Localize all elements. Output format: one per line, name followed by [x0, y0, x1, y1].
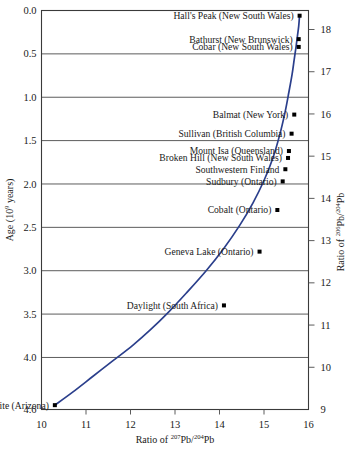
data-point-10[interactable]	[258, 250, 262, 254]
data-point-11[interactable]	[222, 303, 226, 307]
y-tick-label-4.0: 4.0	[23, 352, 36, 363]
y2-tick-label-13: 13	[321, 235, 332, 246]
data-point-1[interactable]	[297, 37, 301, 41]
y-tick-label-0.5: 0.5	[23, 48, 36, 59]
y2-tick-label-12: 12	[321, 277, 332, 288]
point-label-4: Sullivan (British Columbia)	[178, 128, 285, 140]
point-label-11: Daylight (South Africa)	[127, 300, 218, 312]
x-tick-label-15: 15	[259, 419, 270, 430]
y2-tick-label-14: 14	[321, 193, 332, 204]
y2-tick-label-10: 10	[321, 362, 332, 373]
x-tick-label-12: 12	[125, 419, 136, 430]
point-label-10: Geneva Lake (Ontario)	[165, 246, 254, 258]
x-tick-label-13: 13	[170, 419, 181, 430]
data-point-6[interactable]	[286, 156, 290, 160]
svg-text:Age (109 years): Age (109 years)	[3, 179, 16, 242]
data-point-7[interactable]	[283, 167, 287, 171]
y2-tick-label-18: 18	[321, 24, 332, 35]
y2-tick-label-17: 17	[321, 66, 332, 77]
data-point-0[interactable]	[298, 14, 302, 18]
x-tick-label-10: 10	[36, 419, 47, 430]
data-point-9[interactable]	[275, 208, 279, 212]
y2-tick-label-16: 16	[321, 109, 332, 120]
y2-tick-label-11: 11	[321, 320, 331, 331]
y-tick-label-1.5: 1.5	[23, 135, 36, 146]
point-label-3: Balmat (New York)	[213, 109, 288, 121]
data-point-4[interactable]	[290, 132, 294, 136]
point-label-12: Meteor Crater meteorite (Arizona)	[0, 400, 49, 412]
x-tick-label-16: 16	[303, 419, 314, 430]
y-tick-label-0.0: 0.0	[23, 5, 36, 16]
chart-canvas: 0.00.51.01.52.02.53.03.54.04.61011121314…	[0, 0, 353, 455]
y-tick-label-2.0: 2.0	[23, 179, 36, 190]
point-label-2: Cobar (New South Wales)	[192, 41, 293, 53]
point-label-7: Southwestern Finland	[195, 164, 279, 175]
y-tick-label-1.0: 1.0	[23, 92, 36, 103]
point-label-0: Hall's Peak (New South Wales)	[173, 10, 293, 22]
x-tick-label-11: 11	[81, 419, 91, 430]
data-point-3[interactable]	[292, 113, 296, 117]
pb-isotope-growth-curve-figure: 0.00.51.01.52.02.53.03.54.04.61011121314…	[0, 0, 353, 455]
point-label-6: Broken Hill (New South Wales)	[159, 152, 282, 164]
y-tick-label-3.5: 3.5	[23, 309, 36, 320]
x-tick-label-14: 14	[214, 419, 225, 430]
data-point-12[interactable]	[53, 403, 57, 407]
y2-tick-label-15: 15	[321, 151, 332, 162]
data-point-2[interactable]	[297, 45, 301, 49]
y-tick-label-2.5: 2.5	[23, 222, 36, 233]
bottom-axis-title: Ratio of 207Pb/204Pb	[136, 433, 215, 445]
right-axis-title: Ratio of 206Pb/204Pb	[334, 193, 346, 272]
y-tick-label-3.0: 3.0	[23, 265, 36, 276]
point-label-8: Sudbury (Ontario)	[206, 176, 277, 188]
svg-text:Ratio of 206Pb/204Pb: Ratio of 206Pb/204Pb	[334, 193, 346, 272]
data-point-8[interactable]	[281, 179, 285, 183]
left-axis-title: Age (109 years)	[3, 179, 16, 242]
y2-tick-label-9: 9	[321, 404, 326, 415]
point-label-9: Cobalt (Ontario)	[208, 204, 272, 216]
data-point-5[interactable]	[287, 149, 291, 153]
